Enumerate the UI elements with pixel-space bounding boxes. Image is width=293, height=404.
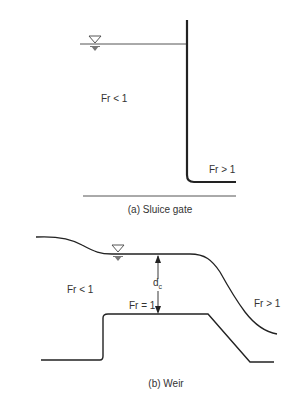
caption-weir: (b) Weir — [148, 378, 183, 389]
diagram-canvas — [0, 0, 293, 404]
weir-body — [41, 314, 274, 362]
downstream-froude-label: Fr > 1 — [209, 164, 235, 175]
caption-sluice-gate: (a) Sluice gate — [128, 204, 192, 215]
critical-depth-label: dc — [153, 277, 162, 290]
weir-crest-froude-label: Fr = 1 — [129, 300, 155, 311]
critical-depth-subscript: c — [159, 283, 163, 290]
sluice-gate — [187, 20, 236, 182]
weir-downstream-froude-label: Fr > 1 — [254, 298, 280, 309]
weir-upstream-froude-label: Fr < 1 — [67, 284, 93, 295]
upstream-froude-label: Fr < 1 — [101, 93, 127, 104]
weir-diagram — [36, 237, 277, 362]
water-level-symbol-icon — [112, 245, 124, 261]
